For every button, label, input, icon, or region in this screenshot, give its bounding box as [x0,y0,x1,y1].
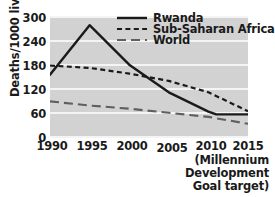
y-tick-240: 240 [20,35,46,49]
x-tick-2010: 2010 [194,139,228,153]
legend-label-world: World [153,33,190,47]
x-tick-1990: 1990 [35,139,69,153]
chart-figure: Deaths/1000 live births 300 240 180 120 … [0,0,275,197]
x-tick-2000: 2000 [115,139,149,153]
y-tick-180: 180 [20,59,46,73]
y-tick-300: 300 [20,11,46,25]
y-tick-120: 120 [20,83,46,97]
legend-swatches [117,14,149,46]
y-tick-60: 60 [20,107,46,121]
x-tick-1995: 1995 [75,139,109,153]
series-line-rwanda [50,25,248,114]
y-axis-tick-labels: 300 240 180 120 60 0 [18,0,46,197]
cut-off-caption [8,189,238,195]
annotation-line-1: (Millennium [194,153,269,167]
x-tick-2005: 2005 [155,141,189,155]
x-tick-2015: 2015 [231,139,265,153]
annotation-line-2: Development [185,166,269,180]
